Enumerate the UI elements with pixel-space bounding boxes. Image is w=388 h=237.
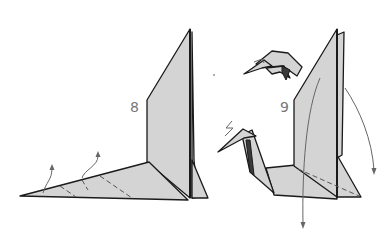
step-9-zigzag-mark (225, 121, 233, 136)
step-8-arrowhead (96, 151, 101, 157)
step-9-neck (242, 130, 274, 193)
step-9-head-detail (244, 51, 302, 80)
stray-mark (213, 74, 215, 76)
step-8-arrowhead (50, 164, 55, 170)
step-9-right-triangle (337, 155, 361, 197)
step-8-right-triangle (192, 160, 208, 198)
step-8-figure (20, 29, 208, 200)
step-8-arrow (82, 156, 98, 178)
step-number-8: 8 (130, 99, 139, 115)
origami-diagram: 8 9 (0, 0, 388, 237)
step-9-figure (218, 29, 377, 229)
step-number-9: 9 (280, 99, 289, 115)
step-9-back-flap (337, 32, 344, 158)
step-9-arrow-right (345, 88, 374, 170)
step-9-arrowhead (372, 168, 377, 175)
step-9-arrowhead (301, 222, 306, 229)
